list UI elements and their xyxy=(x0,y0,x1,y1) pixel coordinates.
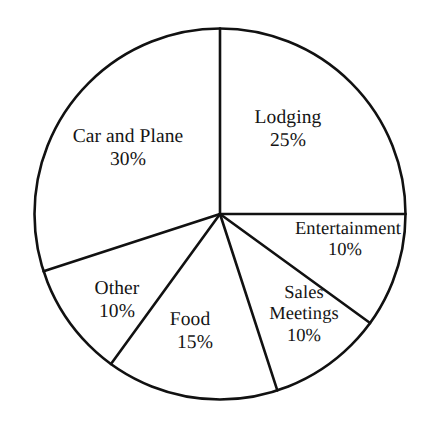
slice-name-lodging: Lodging xyxy=(228,107,348,130)
slice-label-other: Other 10% xyxy=(74,278,160,323)
slice-label-food: Food 15% xyxy=(150,309,230,354)
slice-label-entertainment: Entertainment 10% xyxy=(268,219,428,262)
pie-chart: Lodging 25% Car and Plane 30% Entertainm… xyxy=(0,0,430,422)
slice-name-entertainment: Entertainment xyxy=(268,219,428,240)
slice-value-entertainment: 10% xyxy=(268,240,428,261)
slice-name-car-and-plane: Car and Plane xyxy=(58,126,198,149)
slice-label-car-and-plane: Car and Plane 30% xyxy=(58,126,198,171)
slice-label-sales-meetings: Sales Meetings 10% xyxy=(252,283,356,347)
slice-label-lodging: Lodging 25% xyxy=(228,107,348,152)
slice-value-food: 15% xyxy=(150,332,230,355)
slice-name-sales-meetings-line2: Meetings xyxy=(252,304,356,325)
slice-value-sales-meetings: 10% xyxy=(252,326,356,347)
pie-chart-svg xyxy=(0,0,430,422)
slice-value-other: 10% xyxy=(74,301,160,324)
slice-name-food: Food xyxy=(150,309,230,332)
slice-name-sales-meetings-line1: Sales xyxy=(252,283,356,304)
slice-value-lodging: 25% xyxy=(228,130,348,153)
slice-value-car-and-plane: 30% xyxy=(58,149,198,172)
slice-name-other: Other xyxy=(74,278,160,301)
